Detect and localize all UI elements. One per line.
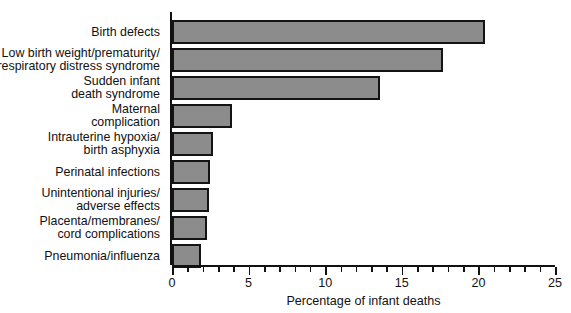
x-tick-minor bbox=[203, 267, 205, 272]
bar-row bbox=[172, 186, 555, 214]
bar bbox=[172, 48, 443, 72]
bar bbox=[172, 20, 485, 44]
category-label: Low birth weight/prematurity/respiratory… bbox=[0, 46, 166, 74]
x-tick-major bbox=[249, 267, 251, 275]
bar-row bbox=[172, 74, 555, 102]
bar bbox=[172, 104, 232, 128]
category-label: Sudden infantdeath syndrome bbox=[0, 74, 166, 102]
category-label-line: respiratory distress syndrome bbox=[0, 60, 160, 73]
category-label: Pneumonia/influenza bbox=[0, 242, 166, 270]
bar-row bbox=[172, 130, 555, 158]
x-tick-minor bbox=[233, 267, 235, 272]
x-tick-major bbox=[325, 267, 327, 275]
x-axis-title: Percentage of infant deaths bbox=[172, 294, 555, 308]
x-tick-label: 25 bbox=[548, 276, 562, 290]
infant-deaths-bar-chart: Birth defectsLow birth weight/prematurit… bbox=[0, 0, 571, 313]
x-tick-minor bbox=[494, 267, 496, 272]
category-label: Intrauterine hypoxia/birth asphyxia bbox=[0, 130, 166, 158]
x-tick-minor bbox=[448, 267, 450, 272]
x-tick-label: 10 bbox=[318, 276, 332, 290]
bar-row bbox=[172, 214, 555, 242]
category-label-line: Pneumonia/influenza bbox=[44, 250, 160, 263]
bar-row bbox=[172, 102, 555, 130]
x-tick-major bbox=[478, 267, 480, 275]
x-tick-minor bbox=[371, 267, 373, 272]
category-label-line: Perinatal infections bbox=[55, 166, 160, 179]
x-tick-minor bbox=[264, 267, 266, 272]
bar-row bbox=[172, 18, 555, 46]
bar bbox=[172, 216, 207, 240]
x-tick-minor bbox=[463, 267, 465, 272]
category-label-line: adverse effects bbox=[76, 200, 160, 213]
category-label: Perinatal infections bbox=[0, 158, 166, 186]
x-tick-major bbox=[555, 267, 557, 275]
x-tick-minor bbox=[218, 267, 220, 272]
category-labels: Birth defectsLow birth weight/prematurit… bbox=[0, 18, 166, 270]
bar-row bbox=[172, 158, 555, 186]
x-tick-minor bbox=[417, 267, 419, 272]
category-label-line: Birth defects bbox=[91, 26, 160, 39]
x-tick-label: 15 bbox=[395, 276, 409, 290]
x-tick-minor bbox=[279, 267, 281, 272]
bar bbox=[172, 132, 213, 156]
x-tick-minor bbox=[310, 267, 312, 272]
bar bbox=[172, 188, 209, 212]
x-axis-line bbox=[172, 265, 555, 267]
x-tick-minor bbox=[295, 267, 297, 272]
category-label: Unintentional injuries/adverse effects bbox=[0, 186, 166, 214]
x-tick-label: 0 bbox=[168, 276, 175, 290]
category-label-line: complication bbox=[91, 116, 160, 129]
x-tick-minor bbox=[524, 267, 526, 272]
bar bbox=[172, 160, 210, 184]
category-label: Maternalcomplication bbox=[0, 102, 166, 130]
category-label: Birth defects bbox=[0, 18, 166, 46]
x-tick-major bbox=[172, 267, 174, 275]
x-tick-minor bbox=[187, 267, 189, 272]
plot-area bbox=[172, 12, 555, 265]
category-label-line: cord complications bbox=[57, 228, 160, 241]
x-tick-minor bbox=[509, 267, 511, 272]
x-tick-minor bbox=[432, 267, 434, 272]
x-tick-label: 20 bbox=[471, 276, 485, 290]
bar-row bbox=[172, 46, 555, 74]
x-tick-minor bbox=[386, 267, 388, 272]
category-label: Placenta/membranes/cord complications bbox=[0, 214, 166, 242]
x-axis: Percentage of infant deaths 0510152025 bbox=[172, 265, 555, 313]
x-tick-label: 5 bbox=[245, 276, 252, 290]
x-tick-major bbox=[402, 267, 404, 275]
x-tick-minor bbox=[341, 267, 343, 272]
category-label-line: death syndrome bbox=[71, 88, 160, 101]
x-tick-minor bbox=[356, 267, 358, 272]
bar bbox=[172, 76, 380, 100]
bars-container bbox=[172, 18, 555, 270]
category-label-line: birth asphyxia bbox=[84, 144, 160, 157]
x-tick-minor bbox=[540, 267, 542, 272]
